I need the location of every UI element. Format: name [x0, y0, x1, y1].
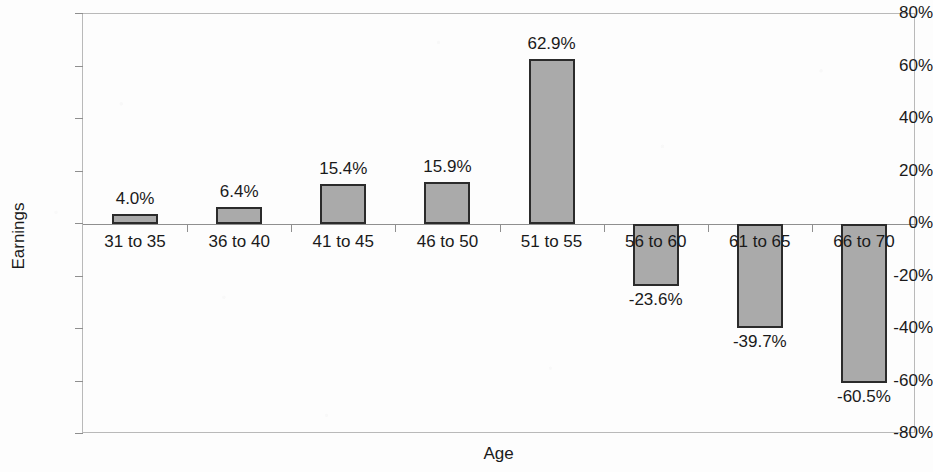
bar-value-label: -39.7%: [708, 332, 812, 352]
bar[interactable]: [529, 59, 575, 224]
y-axis-tick-mark: [75, 381, 83, 382]
bar[interactable]: [424, 182, 470, 224]
y-axis-tick-label: -20%: [871, 266, 933, 286]
y-axis-tick-mark: [75, 223, 83, 224]
y-axis-tick-label: 60%: [871, 56, 933, 76]
bar-category-group: -39.7%61 to 65: [708, 14, 812, 434]
y-axis-tick-mark: [75, 328, 83, 329]
y-axis-tick-mark: [75, 13, 83, 14]
bar-value-label: 6.4%: [187, 182, 291, 202]
y-axis-tick-mark: [75, 433, 83, 434]
bar-category-group: 6.4%36 to 40: [187, 14, 291, 434]
y-axis-title: Earnings: [9, 181, 29, 291]
x-axis-category-label: 46 to 50: [395, 232, 499, 252]
y-axis-tick-mark: [75, 171, 83, 172]
y-axis-tick-label: 20%: [871, 161, 933, 181]
bar-category-group: 15.9%46 to 50: [395, 14, 499, 434]
y-axis-tick-label: 0%: [871, 213, 933, 233]
x-axis-category-label: 31 to 35: [83, 232, 187, 252]
bar-category-group: 15.4%41 to 45: [291, 14, 395, 434]
y-axis-tick-label: 80%: [871, 3, 933, 23]
bar-value-label: 15.4%: [291, 159, 395, 179]
plot-area: 4.0%31 to 356.4%36 to 4015.4%41 to 4515.…: [82, 13, 915, 433]
y-axis-tick-mark: [75, 66, 83, 67]
bar-category-group: 62.9%51 to 55: [500, 14, 604, 434]
bar-value-label: 62.9%: [500, 34, 604, 54]
x-axis-category-label: 51 to 55: [500, 232, 604, 252]
y-axis-tick-label: -80%: [871, 423, 933, 443]
bar[interactable]: [320, 184, 366, 224]
x-axis-category-label: 56 to 60: [604, 232, 708, 252]
bar[interactable]: [112, 214, 158, 225]
bar-chart: Earnings 4.0%31 to 356.4%36 to 4015.4%41…: [0, 0, 933, 472]
bar-category-group: -23.6%56 to 60: [604, 14, 708, 434]
bar-value-label: 4.0%: [83, 189, 187, 209]
y-axis-tick-mark: [75, 118, 83, 119]
bar[interactable]: [216, 207, 262, 224]
y-axis-tick-label: 40%: [871, 108, 933, 128]
x-axis-category-label: 41 to 45: [291, 232, 395, 252]
x-axis-category-label: 61 to 65: [708, 232, 812, 252]
bar-category-group: 4.0%31 to 35: [83, 14, 187, 434]
x-axis-title: Age: [82, 444, 915, 464]
y-axis-tick-label: -40%: [871, 318, 933, 338]
x-axis-category-label: 66 to 70: [812, 232, 916, 252]
bar-value-label: 15.9%: [395, 157, 499, 177]
y-axis-tick-label: -60%: [871, 371, 933, 391]
bar-value-label: -23.6%: [604, 290, 708, 310]
x-axis-category-label: 36 to 40: [187, 232, 291, 252]
y-axis-tick-mark: [75, 276, 83, 277]
